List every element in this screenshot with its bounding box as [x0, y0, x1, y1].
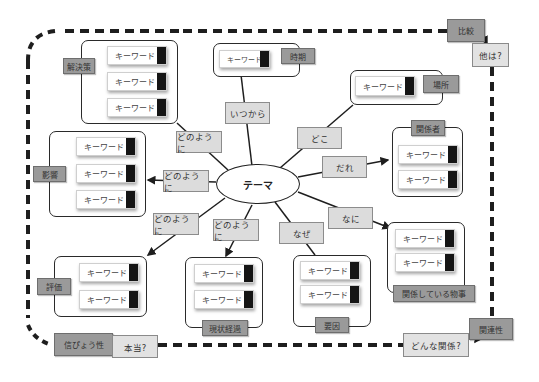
keyword-label: キーワード [115, 76, 155, 87]
keyword-tab [129, 264, 138, 281]
keyword-card[interactable]: キーワード [395, 253, 455, 272]
connector-what: なに [328, 207, 373, 229]
keyword-label: キーワード [308, 289, 348, 300]
tag-comparison: 比較 [447, 19, 485, 42]
tag-solution: 解決策 [63, 58, 95, 74]
theme-node[interactable]: テーマ [216, 164, 300, 204]
keyword-card[interactable]: キーワード [76, 190, 136, 209]
keyword-label: キーワード [406, 174, 446, 185]
keyword-tab [405, 77, 414, 95]
keyword-tab [445, 230, 454, 247]
keyword-label: キーワード [202, 268, 242, 279]
keyword-card[interactable]: キーワード [107, 72, 167, 91]
keyword-label: キーワード [406, 149, 446, 160]
keyword-tab [260, 51, 269, 67]
tag-related: 関係している物事 [393, 285, 475, 302]
keyword-tab [157, 47, 166, 64]
connector-how-solution: どのように [176, 131, 222, 153]
keyword-card[interactable]: キーワード [194, 264, 254, 283]
keyword-label: キーワード [115, 102, 155, 113]
keyword-card[interactable]: キーワード [395, 229, 455, 248]
keyword-label: キーワード [115, 50, 155, 61]
keyword-card[interactable]: キーワード [219, 50, 270, 68]
connector-how-eval: どのように [153, 213, 199, 235]
tag-people: 関係者 [411, 120, 445, 136]
question-really: 本当? [112, 335, 158, 358]
keyword-label: キーワード [227, 54, 262, 64]
connector-when: いつから [225, 102, 270, 124]
keyword-card[interactable]: キーワード [398, 145, 458, 164]
keyword-tab [244, 291, 253, 308]
keyword-label: キーワード [84, 141, 124, 152]
keyword-card[interactable]: キーワード [398, 170, 458, 189]
keyword-tab [350, 262, 359, 279]
keyword-label: キーワード [202, 294, 242, 305]
connector-who: だれ [322, 156, 367, 178]
keyword-card[interactable]: キーワード [300, 285, 360, 304]
tag-time: 時期 [281, 48, 315, 64]
connector-where: どこ [297, 127, 342, 149]
keyword-label: キーワード [87, 294, 127, 305]
tag-progress: 現状経過 [202, 320, 248, 336]
keyword-tab [445, 254, 454, 271]
keyword-tab [126, 165, 135, 182]
question-others: 他は? [472, 43, 509, 67]
connector-how-impact: どのように [163, 170, 209, 192]
keyword-label: キーワード [87, 267, 127, 278]
tag-impact: 影響 [33, 166, 66, 182]
keyword-card[interactable]: キーワード [79, 263, 139, 282]
keyword-tab [126, 191, 135, 208]
keyword-label: キーワード [363, 81, 403, 92]
keyword-card[interactable]: キーワード [107, 98, 167, 117]
keyword-tab [129, 291, 138, 308]
keyword-tab [126, 138, 135, 155]
tag-credibility: 信ぴょう性 [54, 333, 113, 356]
keyword-card[interactable]: キーワード [300, 261, 360, 280]
keyword-card[interactable]: キーワード [76, 164, 136, 183]
keyword-card[interactable]: キーワード [194, 290, 254, 309]
tag-place: 場所 [423, 75, 459, 93]
keyword-label: キーワード [84, 194, 124, 205]
keyword-label: キーワード [403, 233, 443, 244]
question-what-relation: どんな関係? [403, 333, 469, 357]
keyword-card[interactable]: キーワード [76, 137, 136, 156]
keyword-tab [448, 171, 457, 188]
keyword-tab [350, 286, 359, 303]
keyword-tab [157, 99, 166, 116]
keyword-label: キーワード [84, 168, 124, 179]
keyword-tab [244, 265, 253, 282]
connector-how-progress: どのように [213, 219, 259, 241]
tag-evaluation: 評価 [37, 278, 71, 295]
keyword-tab [157, 73, 166, 90]
tag-relevance: 関連性 [469, 318, 513, 340]
keyword-card[interactable]: キーワード [79, 290, 139, 309]
keyword-label: キーワード [308, 265, 348, 276]
keyword-tab [448, 146, 457, 163]
keyword-card[interactable]: キーワード [107, 46, 167, 65]
keyword-card[interactable]: キーワード [355, 76, 415, 96]
connector-why: なぜ [279, 222, 324, 244]
tag-cause: 要因 [315, 317, 349, 333]
keyword-label: キーワード [403, 257, 443, 268]
